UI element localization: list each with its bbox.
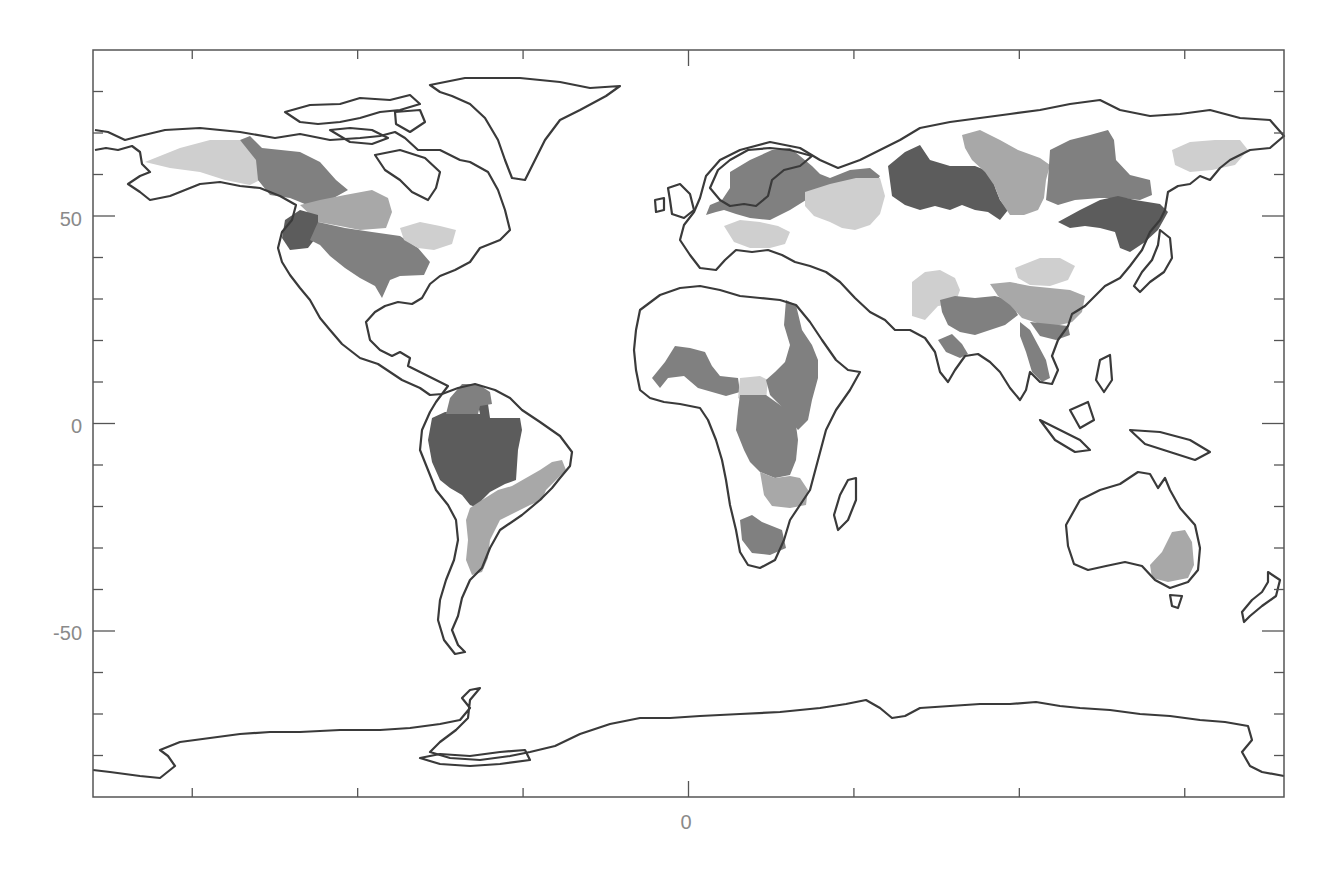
- world-map-figure: [0, 0, 1334, 880]
- basin-murray-darling: [1150, 530, 1194, 582]
- basin-columbia: [282, 210, 318, 250]
- coast-se-asia-islands: [1040, 355, 1210, 460]
- coast-new-zealand: [1242, 572, 1280, 622]
- basin-huang-he: [1015, 258, 1075, 286]
- coast-british-isles: [655, 184, 694, 218]
- basin-niger: [652, 346, 740, 396]
- y-axis-label-50: 50: [22, 209, 82, 229]
- coast-tasmania: [1170, 595, 1182, 608]
- y-axis-label-minus-50: -50: [22, 623, 82, 643]
- basin-yukon: [145, 140, 260, 185]
- x-axis-label-0: 0: [666, 812, 706, 832]
- basin-danube: [724, 220, 790, 248]
- basin-ganges-south: [938, 334, 968, 358]
- coast-madagascar: [834, 478, 856, 530]
- basin-amur: [1058, 196, 1168, 252]
- coast-antarctic-peninsula-shelf: [420, 750, 530, 766]
- basin-lena: [1046, 130, 1152, 205]
- coast-antarctica: [93, 688, 1284, 778]
- coast-greenland: [430, 78, 620, 180]
- basin-layer: [145, 130, 1248, 582]
- y-axis-label-0: 0: [22, 416, 82, 436]
